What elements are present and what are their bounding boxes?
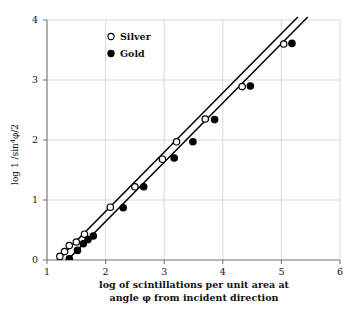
data-point-gold: [120, 205, 126, 211]
y-tick-label: 2: [32, 134, 38, 145]
scatter-chart-figure: 123456 01234 Silver Gold log 1 /sin4φ/2 …: [0, 0, 360, 314]
data-point-silver: [61, 248, 67, 254]
x-tick-label: 5: [278, 266, 284, 277]
x-axis-caption-line-1: log of scintillations per unit area at: [99, 279, 289, 290]
data-point-gold: [171, 155, 177, 161]
legend-marker-gold-filled-circle-icon: [108, 50, 114, 56]
plot-canvas: 123456 01234 Silver Gold log 1 /sin4φ/2 …: [0, 0, 360, 314]
data-point-silver: [202, 116, 208, 122]
data-point-silver: [281, 41, 287, 47]
y-axis-label: log 1 /sin4φ/2: [9, 124, 20, 185]
y-tick-label: 4: [32, 14, 38, 25]
y-tick-label: 1: [32, 194, 38, 205]
data-point-gold: [289, 40, 295, 46]
x-axis-caption-line-2: angle φ from incident direction: [110, 292, 279, 303]
data-point-gold: [66, 256, 72, 262]
data-point-silver: [239, 83, 245, 89]
data-point-silver: [173, 139, 179, 145]
data-point-gold: [74, 247, 80, 253]
data-point-silver: [73, 239, 79, 245]
x-tick-label: 3: [161, 266, 167, 277]
x-tick-label: 4: [220, 266, 226, 277]
y-axis-label-suffix: φ/2: [10, 124, 20, 139]
data-point-gold: [247, 83, 253, 89]
data-point-silver: [66, 242, 72, 248]
x-tick-label: 2: [103, 266, 109, 277]
chart-legend: Silver Gold: [108, 31, 152, 59]
x-tick-label: 1: [44, 266, 50, 277]
svg-text:log 1 /sin4φ/2: log 1 /sin4φ/2: [9, 124, 20, 185]
data-point-silver: [159, 156, 165, 162]
y-axis-tick-labels: 01234: [32, 14, 38, 265]
y-tick-label: 3: [32, 74, 38, 85]
x-axis-caption: log of scintillations per unit area at a…: [99, 279, 289, 303]
data-point-gold: [211, 116, 217, 122]
data-point-silver: [107, 204, 113, 210]
legend-marker-silver-open-circle-icon: [108, 33, 114, 39]
y-tick-label: 0: [32, 254, 38, 265]
data-point-gold: [190, 139, 196, 145]
data-point-gold: [90, 233, 96, 239]
data-point-silver: [132, 184, 138, 190]
legend-label-gold: Gold: [120, 48, 145, 59]
x-tick-label: 6: [337, 266, 343, 277]
x-axis-tick-labels: 123456: [44, 266, 343, 277]
data-point-gold: [140, 184, 146, 190]
y-axis-label-prefix: log 1 /sin: [10, 143, 20, 185]
legend-label-silver: Silver: [120, 31, 152, 42]
